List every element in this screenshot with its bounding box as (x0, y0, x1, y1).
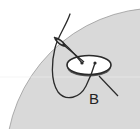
button-icon (67, 56, 111, 77)
label-b: B (89, 91, 99, 106)
button-sewing-illustration: B (0, 0, 140, 129)
